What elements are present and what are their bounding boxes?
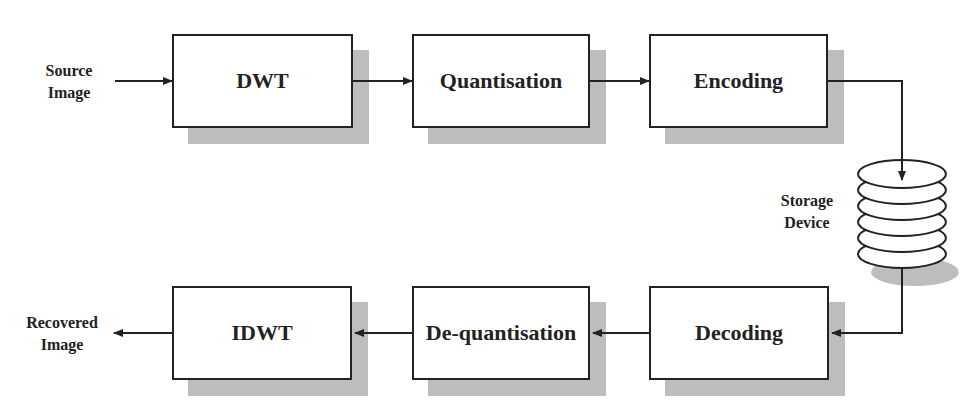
encoding-label: Encoding [694, 68, 783, 94]
recovered-image-label: Recovered Image [14, 312, 110, 356]
storage-device-label: Storage Device [768, 190, 846, 234]
decoding-label: Decoding [695, 320, 783, 346]
dequantisation-label: De-quantisation [426, 320, 576, 346]
quantisation-label: Quantisation [440, 68, 562, 94]
dwt-label: DWT [236, 68, 289, 94]
source-image-label: Source Image [28, 60, 110, 104]
idwt-label: IDWT [231, 320, 292, 346]
quantisation-block: Quantisation [412, 34, 590, 128]
idwt-block: IDWT [172, 286, 352, 380]
dequantisation-block: De-quantisation [412, 286, 590, 380]
decoding-block: Decoding [649, 286, 829, 380]
dwt-block: DWT [172, 34, 353, 128]
encoding-block: Encoding [649, 34, 828, 128]
